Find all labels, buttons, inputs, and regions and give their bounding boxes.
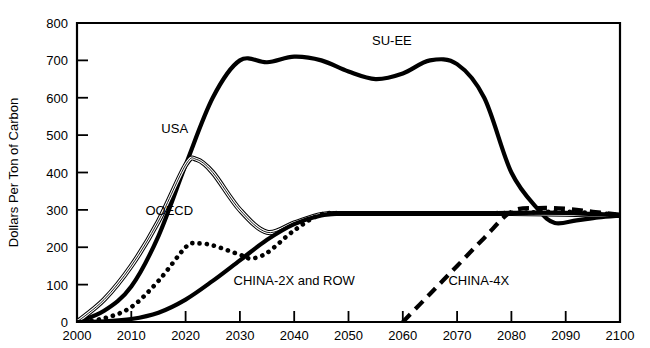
label-china-2x-and-row: CHINA-2X and ROW [234,273,356,288]
x-axis-tick-label: 2080 [497,328,526,343]
series-china-4x [403,208,620,322]
y-axis-tick-label: 800 [46,16,68,31]
y-axis-tick-label: 300 [46,203,68,218]
y-axis-tick-label: 100 [46,278,68,293]
label-usa: USA [161,121,188,136]
x-axis-tick-label: 2090 [551,328,580,343]
chart-container: 0100200300400500600700800200020102020203… [0,0,650,348]
label-china-4x: CHINA-4X [448,273,509,288]
emissions-price-line-chart: 0100200300400500600700800200020102020203… [0,0,650,348]
label-su-ee: SU-EE [372,33,412,48]
x-axis-tick-label: 2040 [280,328,309,343]
x-axis-tick-label: 2030 [225,328,254,343]
y-axis-tick-label: 200 [46,240,68,255]
x-axis-tick-label: 2100 [606,328,635,343]
y-axis-tick-label: 700 [46,53,68,68]
x-axis-tick-label: 2020 [171,328,200,343]
y-axis-tick-label: 600 [46,91,68,106]
x-axis-tick-label: 2050 [334,328,363,343]
x-axis-tick-label: 2070 [443,328,472,343]
x-axis-tick-label: 2010 [117,328,146,343]
series-china-2x-and-row [77,213,620,322]
label-ooecd: OOECD [145,203,193,218]
y-axis-title: Dollars Per Ton of Carbon [6,98,21,247]
x-axis-tick-label: 2000 [63,328,92,343]
y-axis-tick-label: 500 [46,128,68,143]
y-axis-tick-label: 400 [46,166,68,181]
series-ooecd [77,212,620,322]
x-axis-tick-label: 2060 [388,328,417,343]
